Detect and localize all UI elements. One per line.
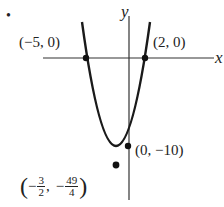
vertex-point <box>113 162 120 169</box>
vertex-label: (−32,−494) <box>20 174 87 198</box>
left-root-label: (−5, 0) <box>19 35 60 50</box>
right-root-point <box>142 55 148 61</box>
x-axis-label: x <box>215 49 223 66</box>
left-root-point <box>83 55 89 61</box>
y-intercept-label: (0, −10) <box>135 143 183 158</box>
parabola-curve <box>82 22 150 146</box>
y-intercept-point <box>125 143 131 149</box>
y-axis-label: y <box>121 3 129 20</box>
vertex-y-fraction: 494 <box>65 175 78 198</box>
right-root-label: (2, 0) <box>153 35 186 50</box>
vertex-x-fraction: 32 <box>37 175 45 198</box>
